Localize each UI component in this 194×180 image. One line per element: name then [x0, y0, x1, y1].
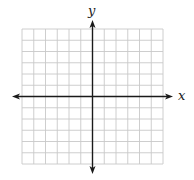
axes	[12, 20, 173, 174]
x-axis-label: x	[178, 89, 185, 102]
coordinate-plane	[0, 0, 194, 180]
y-axis-label: y	[88, 4, 95, 17]
